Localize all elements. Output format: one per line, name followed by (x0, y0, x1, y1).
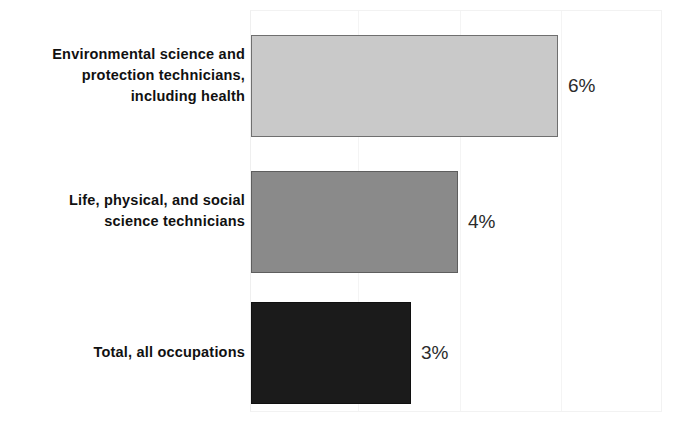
gridline-vertical (561, 11, 562, 411)
category-label-total-all-occupations: Total, all occupations (0, 342, 245, 363)
plot-area: 6% 4% 3% (250, 10, 662, 412)
bar-value-label: 6% (568, 75, 595, 97)
bar-value-label: 3% (421, 342, 448, 364)
bar-chart: 6% 4% 3% Environmental science and prote… (0, 0, 685, 427)
category-label-line: Life, physical, and social (0, 190, 245, 211)
bar-total-all-occupations[interactable] (251, 302, 411, 404)
bar-value-label: 4% (468, 211, 495, 233)
category-label-line: science technicians (0, 211, 245, 232)
bar-environmental-science[interactable] (251, 35, 558, 137)
category-label-line: Total, all occupations (0, 342, 245, 363)
category-label-line: including health (0, 86, 245, 107)
category-label-line: protection technicians, (0, 65, 245, 86)
bar-life-physical-social[interactable] (251, 171, 458, 273)
category-label-environmental-science: Environmental science and protection tec… (0, 44, 245, 107)
category-label-life-physical-social: Life, physical, and social science techn… (0, 190, 245, 232)
category-label-line: Environmental science and (0, 44, 245, 65)
